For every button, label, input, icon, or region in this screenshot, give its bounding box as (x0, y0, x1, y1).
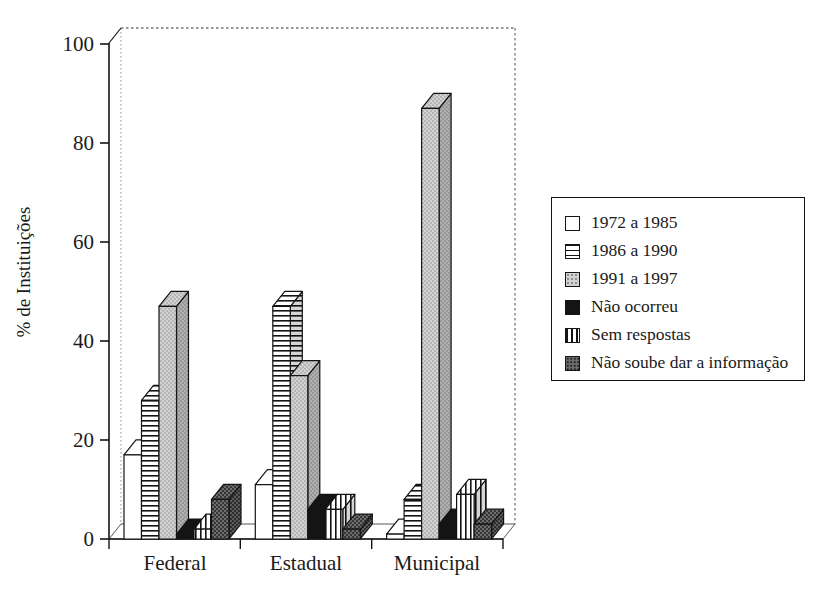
legend-swatch-vertical-stripes-icon (565, 328, 580, 343)
y-tick-100: 100 (63, 32, 95, 56)
y-tick-60: 60 (73, 230, 94, 254)
y-axis-title: % de Instituições (13, 207, 34, 338)
legend-item-sem-respostas: Sem respostas (565, 321, 798, 349)
category-labels: Federal Estadual Municipal (144, 551, 481, 575)
legend-label: 1972 a 1985 (591, 214, 678, 232)
y-tick-20: 20 (73, 428, 94, 452)
legend-label: 1986 a 1990 (591, 242, 678, 260)
legend-swatch-horizontal-stripes-icon (565, 244, 580, 259)
legend-label: 1991 a 1997 (591, 270, 678, 288)
legend-item-nao-soube-dar-a-informacao: Não soube dar a informação (565, 349, 798, 377)
y-tick-labels: 0 20 40 60 80 100 (63, 32, 95, 551)
legend-item-nao-ocorreu: Não ocorreu (565, 293, 798, 321)
legend-label: Não soube dar a informação (591, 354, 788, 372)
legend-item-1972-a-1985: 1972 a 1985 (565, 209, 798, 237)
bar-municipal-series-2 (422, 93, 452, 539)
x-axis (109, 539, 503, 549)
chart-legend: 1972 a 1985 1986 a 1990 1991 a 1997 Não … (551, 197, 805, 381)
legend-swatch-dark-dots-icon (565, 356, 580, 371)
legend-swatch-plain-white-icon (565, 216, 580, 231)
bar-federal-series-2 (159, 291, 189, 539)
y-tick-80: 80 (73, 131, 94, 155)
legend-swatch-light-dots-icon (565, 272, 580, 287)
legend-item-1991-a-1997: 1991 a 1997 (565, 265, 798, 293)
bar-group-municipal (387, 93, 504, 539)
legend-swatch-solid-black-icon (565, 300, 580, 315)
bars-layer (124, 93, 504, 539)
bar-group-estadual (255, 291, 372, 539)
category-label-estadual: Estadual (270, 551, 342, 575)
legend-label: Sem respostas (591, 326, 691, 344)
legend-label: Não ocorreu (591, 298, 678, 316)
scanned-chart-page: 0 20 40 60 80 100 Federal Estadual Munic… (0, 0, 829, 592)
y-tick-0: 0 (84, 527, 95, 551)
category-label-federal: Federal (144, 551, 207, 575)
legend-item-1986-a-1990: 1986 a 1990 (565, 237, 798, 265)
category-label-municipal: Municipal (394, 551, 480, 575)
y-tick-40: 40 (73, 329, 94, 353)
bar-group-federal (124, 291, 241, 539)
y-axis (100, 28, 121, 539)
